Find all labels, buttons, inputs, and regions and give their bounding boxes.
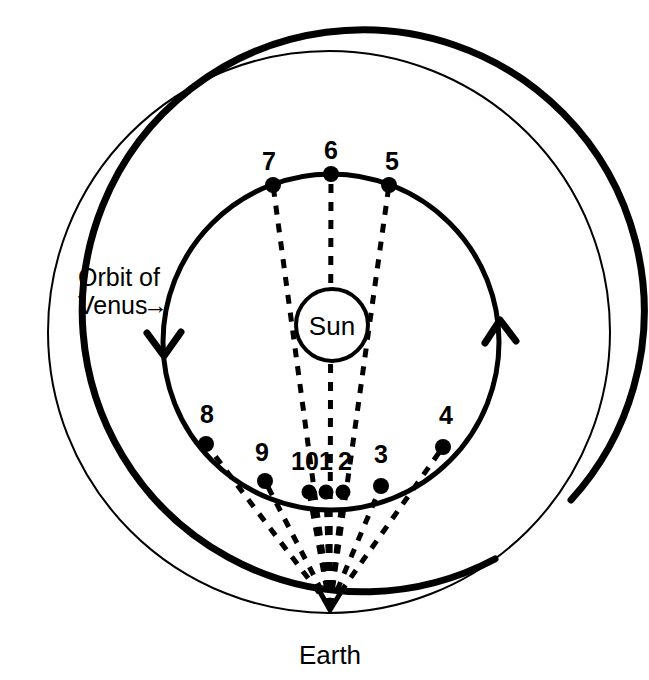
venus-position-label-10: 10	[291, 447, 319, 475]
sight-line-to-venus-6	[330, 174, 331, 607]
venus-dot-9	[257, 473, 273, 489]
earth-label: Earth	[299, 640, 361, 670]
venus-position-label-6: 6	[324, 136, 338, 164]
venus-dot-5	[381, 177, 397, 193]
orbit-of-venus-annotation: Orbit of Venus →	[78, 263, 168, 319]
venus-dot-2	[336, 485, 351, 500]
orbit-of-venus-arrow-icon: →	[143, 291, 168, 319]
venus-position-label-4: 4	[439, 401, 453, 429]
venus-dot-1	[319, 485, 334, 500]
venus-position-label-8: 8	[200, 400, 214, 428]
venus-position-label-1: 1	[319, 447, 333, 475]
venus-position-label-3: 3	[374, 440, 388, 468]
venus-orbit-diagram: Sun 1 2 3 4 5 6 7 8 9 10	[0, 0, 649, 680]
venus-dot-8	[198, 436, 214, 452]
venus-dot-6	[323, 166, 339, 182]
venus-position-label-9: 9	[255, 438, 269, 466]
venus-dot-7	[265, 177, 281, 193]
orbit-of-venus-label-line1: Orbit of	[78, 263, 160, 291]
venus-dot-10	[302, 485, 317, 500]
lines-of-sight-from-earth	[206, 174, 443, 607]
sight-line-to-venus-5	[330, 185, 389, 607]
orbit-of-venus-label-line2: Venus	[78, 291, 148, 319]
venus-position-label-2: 2	[338, 447, 352, 475]
sun-group: Sun	[296, 289, 368, 361]
venus-position-label-5: 5	[385, 147, 399, 175]
venus-dot-4	[435, 439, 451, 455]
venus-dot-3	[373, 478, 389, 494]
venus-position-label-7: 7	[262, 147, 276, 175]
sun-label: Sun	[309, 311, 355, 341]
orbit-diagram-canvas: Sun 1 2 3 4 5 6 7 8 9 10	[0, 0, 649, 680]
